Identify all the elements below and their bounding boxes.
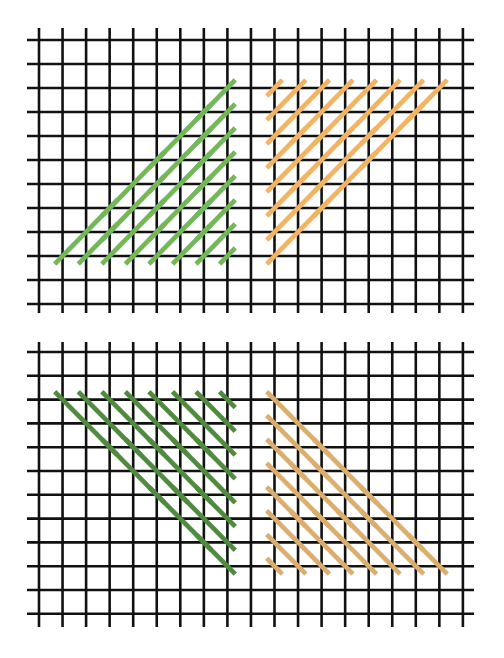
stitch — [196, 152, 235, 192]
stitch — [408, 535, 447, 575]
stitch — [196, 439, 235, 479]
stitch — [196, 535, 235, 575]
bottom-stitch-diagram — [0, 330, 504, 658]
top-diagram-grid — [27, 28, 474, 313]
stitch — [196, 200, 235, 240]
stitch — [196, 224, 235, 264]
stitch — [196, 80, 235, 120]
green-block-bottom-left — [55, 392, 235, 574]
stitch — [196, 104, 235, 144]
orange-block-bottom-right — [267, 392, 447, 574]
stitch — [267, 80, 306, 120]
stitch — [196, 176, 235, 216]
stitch — [196, 392, 235, 432]
orange-block-top-right — [267, 80, 447, 264]
stitch — [408, 80, 447, 120]
bottom-diagram-grid — [27, 342, 474, 627]
top-stitch-diagram — [0, 0, 504, 330]
stitch — [196, 487, 235, 527]
green-block-top-left — [55, 80, 235, 264]
top-grid-canvas — [0, 0, 504, 330]
stitch — [267, 535, 306, 575]
stitch — [196, 128, 235, 168]
bottom-grid-canvas — [0, 330, 504, 658]
